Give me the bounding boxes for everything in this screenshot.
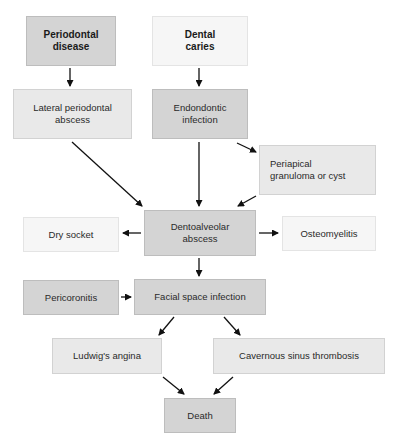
node-label: Death [187,410,212,422]
node-label: Dental caries [185,29,216,53]
node-label: Endondontic infection [174,102,227,126]
node-death: Death [164,398,236,433]
node-pericoronitis: Pericoronitis [23,280,119,315]
node-label: Dentoalveolar abscess [171,221,230,245]
node-cavernous-sinus-thrombosis: Cavernous sinus thrombosis [213,338,385,374]
arrow-ludwigs-to-death [163,377,184,394]
node-lateral-periodontal-abscess: Lateral periodontal abscess [13,89,132,139]
arrow-periapical-to-dentoalveolar [238,196,256,206]
node-dry-socket: Dry socket [23,217,119,252]
arrow-facial-to-cavernous [224,317,240,335]
node-label: Osteomyelitis [300,228,357,240]
node-label: Ludwig's angina [73,350,141,362]
node-label: Pericoronitis [45,292,97,304]
node-label: Cavernous sinus thrombosis [239,350,359,362]
node-periodontal-disease: Periodontal disease [26,16,116,66]
node-label: Periodontal disease [43,29,98,53]
node-label: Dry socket [49,229,94,241]
arrow-cavernous-to-death [214,377,233,394]
node-label: Periapical granuloma or cyst [270,158,346,182]
node-osteomyelitis: Osteomyelitis [282,216,376,251]
node-facial-space-infection: Facial space infection [134,279,266,315]
arrow-lateral-to-dentoalveolar [72,142,142,206]
node-label: Facial space infection [154,291,245,303]
node-dentoalveolar-abscess: Dentoalveolar abscess [144,210,256,256]
arrow-facial-to-ludwigs [159,317,174,335]
node-endodontic-infection: Endondontic infection [152,89,248,139]
arrow-endodontic-to-periapical [237,143,256,152]
node-periapical-granuloma: Periapical granuloma or cyst [259,145,376,195]
node-label: Lateral periodontal abscess [33,102,112,126]
node-dental-caries: Dental caries [152,16,248,66]
node-ludwigs-angina: Ludwig's angina [52,338,162,374]
